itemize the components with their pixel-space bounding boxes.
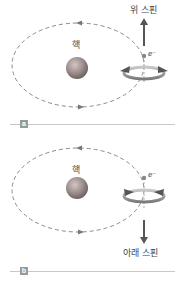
panel-tag-a: a — [20, 120, 28, 128]
spin-rotation-arrow-left-icon — [120, 66, 130, 73]
electron-label: e⁻ — [148, 50, 156, 58]
spin-up-diagram — [0, 0, 179, 140]
electron-label: e⁻ — [148, 171, 156, 179]
spin-down-arrow-icon — [140, 237, 148, 244]
nucleus-label: 핵 — [72, 163, 80, 176]
orbit-arrow-bottom-icon — [78, 105, 84, 110]
orbit-arrow-top-icon — [76, 146, 82, 151]
nucleus — [66, 57, 88, 79]
panel-a-spin-up: 핵 위 스핀 e⁻ a — [0, 0, 179, 140]
spin-label: 위 스핀 — [130, 3, 157, 16]
orbit-arrow-top-icon — [76, 21, 82, 26]
panel-b-spin-down: 핵 아래 스핀 e⁻ b — [0, 140, 179, 287]
panel-tag-b: b — [20, 267, 28, 275]
spin-rotation-arrow-right-icon — [158, 66, 168, 73]
nucleus — [66, 177, 88, 199]
panel-divider — [10, 271, 175, 272]
spin-down-diagram — [0, 140, 179, 287]
panel-divider — [10, 124, 175, 125]
electron — [142, 176, 146, 180]
nucleus-label: 핵 — [72, 38, 80, 51]
spin-label: 아래 스핀 — [123, 246, 158, 259]
electron — [142, 54, 146, 58]
spin-up-arrow-icon — [140, 18, 148, 25]
orbit-arrow-bottom-icon — [78, 230, 84, 235]
